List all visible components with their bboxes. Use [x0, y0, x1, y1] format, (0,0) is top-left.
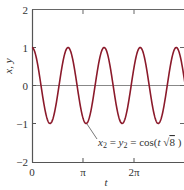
- y-tick-label: 0: [23, 80, 29, 92]
- y-axis-label: x, y: [2, 58, 14, 74]
- x-axis-label: t: [104, 176, 108, 188]
- curve-annotation: x2 = y2 = cos(t √8 ): [97, 136, 182, 150]
- x-axis-ticks: 0π2π: [29, 10, 140, 178]
- cosine-chart: 0π2π 210−1−2 x2 = y2 = cos(t √8 ) t x, y: [0, 0, 184, 190]
- x-tick-label: π: [80, 166, 86, 178]
- x-tick-label: 2π: [128, 166, 140, 178]
- y-tick-label: 2: [23, 4, 29, 16]
- y-tick-label: 1: [23, 42, 29, 54]
- y-tick-label: −1: [16, 118, 28, 130]
- y-tick-label: −2: [16, 156, 28, 168]
- annotation-leader-line: [87, 124, 97, 139]
- x-tick-label: 0: [29, 166, 35, 178]
